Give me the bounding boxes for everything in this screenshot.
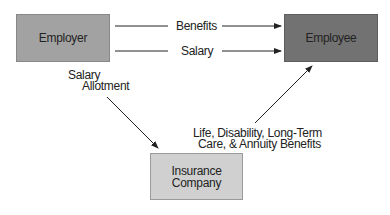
insurance-benefits-label-line2: Care, & Annuity Benefits: [198, 138, 321, 150]
salary-label: Salary: [181, 45, 213, 57]
benefits-label: Benefits: [176, 20, 217, 32]
insurance-benefits-arrow: [255, 66, 312, 123]
employer-node: Employer: [16, 14, 110, 62]
allotment-arrow: [107, 97, 158, 148]
employee-label: Employee: [306, 32, 357, 44]
employer-label: Employer: [39, 32, 87, 44]
insurance-label-line2: Company: [172, 177, 222, 189]
employee-node: Employee: [284, 14, 378, 62]
insurance-company-node: Insurance Company: [150, 153, 243, 200]
allotment-label-line2: Allotment: [82, 80, 129, 92]
insurance-label-line1: Insurance: [172, 165, 222, 177]
